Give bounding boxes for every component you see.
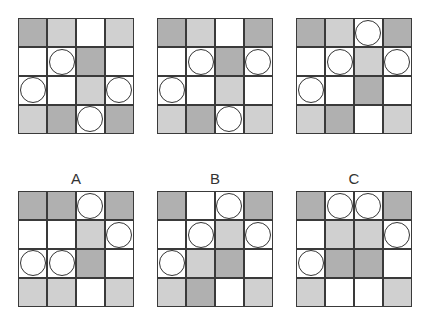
grid-cell-white [106,250,133,277]
grid-cell-light [326,221,353,248]
grid-cell-circle [187,221,214,248]
grid-cell-dark [158,192,185,219]
grid-cell-circle [355,192,382,219]
grid-cell-circle [355,19,382,46]
grid-cell-light [77,221,104,248]
grid-cell-circle [48,250,75,277]
grid-cell-light [106,279,133,306]
grid-cell-white [384,77,411,104]
grid-cell-circle [19,250,46,277]
grid-cell-white [158,221,185,248]
grid-cell-white [216,19,243,46]
grid-cell-dark [187,279,214,306]
grid-cell-white [19,221,46,248]
grid-cell-circle [216,106,243,133]
grid-cell-circle [216,192,243,219]
grid-cell-light [48,19,75,46]
grid-cell-dark [355,250,382,277]
grid-cell-light [384,106,411,133]
grid-cell-dark [106,106,133,133]
grid-cell-light [355,48,382,75]
grid-cell-dark [297,192,324,219]
grid-cell-dark [19,192,46,219]
circle-icon [20,77,46,103]
circle-icon [106,222,132,248]
grid-cell-dark [245,19,272,46]
option-grid-c[interactable] [296,191,412,307]
option-grid-b[interactable] [157,191,273,307]
grid-cell-dark [48,192,75,219]
grid-cell-light [216,77,243,104]
grid-cell-white [187,77,214,104]
grid-cell-dark [187,106,214,133]
grid-cell-white [326,77,353,104]
grid-cell-white [106,48,133,75]
sequence-grid-1 [18,18,134,134]
grid-cell-light [77,77,104,104]
grid-cell-dark [384,19,411,46]
grid-cell-circle [297,250,324,277]
grid-cell-circle [245,221,272,248]
grid-cell-dark [326,106,353,133]
grid-cell-circle [48,48,75,75]
grid-cell-light [158,106,185,133]
option-label-a: A [18,170,134,187]
grid-cell-light [355,221,382,248]
grid-cell-dark [216,250,243,277]
circle-icon [384,222,410,248]
grid-cell-circle [158,77,185,104]
sequence-grid-2 [157,18,273,134]
grid-cell-white [326,279,353,306]
grid-cell-dark [77,250,104,277]
grid-cell-circle [77,192,104,219]
grid-cell-circle [384,221,411,248]
grid-cell-light [384,279,411,306]
grid-cell-white [216,279,243,306]
grid-cell-white [355,279,382,306]
grid-cell-dark [245,192,272,219]
grid-cell-white [297,48,324,75]
grid-cell-light [106,19,133,46]
grid-cell-white [355,106,382,133]
circle-icon [245,49,271,75]
grid-cell-circle [297,77,324,104]
circle-icon [106,77,132,103]
grid-cell-dark [355,77,382,104]
option-grid-a[interactable] [18,191,134,307]
grid-cell-dark [77,48,104,75]
grid-cell-circle [187,48,214,75]
grid-cell-circle [158,250,185,277]
circle-icon [49,49,75,75]
grid-cell-light [187,250,214,277]
grid-cell-white [158,48,185,75]
circle-icon [327,193,353,219]
sequence-grid-3 [296,18,412,134]
circle-icon [49,250,75,276]
circle-icon [77,193,103,219]
grid-cell-circle [106,77,133,104]
grid-cell-dark [297,19,324,46]
circle-icon [355,20,381,46]
grid-cell-light [245,106,272,133]
grid-cell-light [245,279,272,306]
grid-cell-white [384,250,411,277]
grid-cell-dark [326,250,353,277]
circle-icon [298,250,324,276]
grid-cell-light [297,106,324,133]
circle-icon [188,222,214,248]
grid-cell-circle [106,221,133,248]
grid-cell-dark [158,19,185,46]
circle-icon [77,106,103,132]
circle-icon [298,77,324,103]
grid-cell-white [77,19,104,46]
grid-cell-light [187,19,214,46]
grid-cell-light [297,279,324,306]
grid-cell-white [48,221,75,248]
circle-icon [159,250,185,276]
circle-icon [245,222,271,248]
grid-cell-dark [19,19,46,46]
grid-cell-white [245,77,272,104]
grid-cell-circle [384,48,411,75]
grid-cell-white [297,221,324,248]
grid-cell-circle [19,77,46,104]
